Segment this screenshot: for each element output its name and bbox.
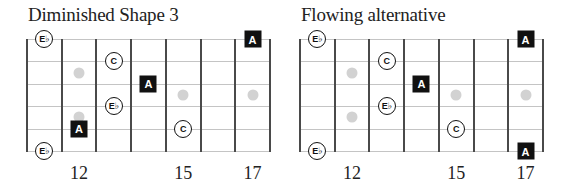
fret-line (368, 39, 370, 152)
inlay-dot-icon (451, 90, 462, 101)
diagram-title: Flowing alternative (301, 4, 445, 26)
note-square-icon: A (413, 75, 430, 92)
fret-line (473, 39, 475, 152)
fret-line (334, 39, 336, 152)
inlay-dot-icon (347, 112, 358, 123)
inlay-dot-icon (520, 90, 531, 101)
note-circle-icon: C (378, 52, 396, 70)
note-circle-icon: E♭ (308, 30, 326, 48)
note-square-icon: A (517, 31, 534, 48)
note-circle-icon: E♭ (378, 97, 396, 115)
fret-number-label: 12 (343, 163, 361, 184)
note-circle-icon: C (447, 120, 465, 138)
fret-number-label: 17 (517, 163, 535, 184)
fretboard: E♭ACAE♭CE♭A (300, 39, 543, 151)
fret-line (438, 39, 440, 152)
note-square-icon: A (517, 143, 534, 160)
note-circle-icon: E♭ (308, 142, 326, 160)
fret-line (542, 39, 544, 152)
fret-number-label: 15 (447, 163, 465, 184)
fret-line (403, 39, 405, 152)
inlay-dot-icon (347, 67, 358, 78)
fret-line (507, 39, 509, 152)
diagram-flowing-alternative: Flowing alternative E♭ACAE♭CE♭A 121517 (0, 0, 282, 190)
fret-line (299, 39, 301, 152)
